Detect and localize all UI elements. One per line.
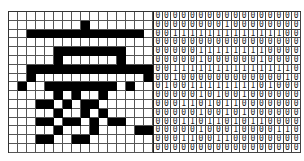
matrix-cell: 0 bbox=[258, 82, 267, 91]
pixel-off bbox=[99, 144, 108, 153]
pixel-off bbox=[45, 21, 54, 30]
pixel-off bbox=[144, 91, 153, 100]
pixel-off bbox=[135, 82, 144, 91]
matrix-cell: 1 bbox=[258, 30, 267, 39]
pixel-on bbox=[27, 30, 36, 39]
matrix-cell: 0 bbox=[249, 74, 258, 83]
pixel-on bbox=[126, 30, 135, 39]
pixel-on bbox=[72, 91, 81, 100]
pixel-off bbox=[135, 100, 144, 109]
pixel-off bbox=[72, 109, 81, 118]
matrix-cell: 1 bbox=[206, 82, 215, 91]
pixel-off bbox=[45, 109, 54, 118]
matrix-cell: 0 bbox=[214, 126, 223, 135]
pixel-off bbox=[99, 38, 108, 47]
pixel-off bbox=[36, 126, 45, 135]
pixel-off bbox=[36, 74, 45, 83]
pixel-off bbox=[99, 74, 108, 83]
pixel-off bbox=[117, 82, 126, 91]
matrix-cell: 0 bbox=[284, 144, 293, 153]
matrix-cell: 0 bbox=[240, 118, 249, 127]
pixel-off bbox=[36, 38, 45, 47]
matrix-cell: 0 bbox=[292, 118, 301, 127]
matrix-cell: 0 bbox=[180, 38, 189, 47]
pixel-off bbox=[90, 74, 99, 83]
matrix-cell: 1 bbox=[275, 126, 284, 135]
matrix-cell: 0 bbox=[163, 74, 172, 83]
matrix-cell: 1 bbox=[284, 65, 293, 74]
matrix-cell: 1 bbox=[197, 82, 206, 91]
pixel-off bbox=[135, 56, 144, 65]
matrix-cell: 1 bbox=[258, 118, 267, 127]
matrix-cell: 1 bbox=[214, 30, 223, 39]
pixel-off bbox=[108, 144, 117, 153]
pixel-off bbox=[90, 21, 99, 30]
pixel-off bbox=[81, 38, 90, 47]
pixel-on bbox=[90, 82, 99, 91]
matrix-cell: 0 bbox=[189, 91, 198, 100]
pixel-off bbox=[9, 47, 18, 56]
matrix-cell: 0 bbox=[284, 91, 293, 100]
pixel-off bbox=[18, 65, 27, 74]
pixel-off bbox=[54, 118, 63, 127]
pixel-on bbox=[99, 65, 108, 74]
pixel-off bbox=[126, 118, 135, 127]
matrix-cell: 0 bbox=[163, 135, 172, 144]
pixel-off bbox=[81, 74, 90, 83]
matrix-cell: 0 bbox=[223, 12, 232, 21]
matrix-cell: 0 bbox=[292, 82, 301, 91]
pixel-off bbox=[144, 38, 153, 47]
pixel-off bbox=[27, 21, 36, 30]
pixel-off bbox=[18, 21, 27, 30]
matrix-cell: 0 bbox=[249, 126, 258, 135]
matrix-cell: 1 bbox=[206, 65, 215, 74]
pixel-off bbox=[144, 109, 153, 118]
matrix-cell: 1 bbox=[197, 126, 206, 135]
pixel-on bbox=[81, 100, 90, 109]
pixel-on bbox=[18, 82, 27, 91]
matrix-cell: 0 bbox=[292, 135, 301, 144]
matrix-cell: 0 bbox=[197, 135, 206, 144]
pixel-off bbox=[117, 100, 126, 109]
matrix-cell: 1 bbox=[180, 135, 189, 144]
pixel-on bbox=[99, 82, 108, 91]
pixel-off bbox=[54, 38, 63, 47]
matrix-cell: 0 bbox=[180, 126, 189, 135]
matrix-cell: 0 bbox=[275, 38, 284, 47]
matrix-cell: 0 bbox=[258, 91, 267, 100]
pixel-on bbox=[45, 135, 54, 144]
pixel-off bbox=[117, 91, 126, 100]
matrix-cell: 0 bbox=[197, 12, 206, 21]
matrix-cell: 1 bbox=[189, 82, 198, 91]
matrix-cell: 0 bbox=[189, 12, 198, 21]
matrix-cell: 0 bbox=[284, 135, 293, 144]
pixel-on bbox=[81, 65, 90, 74]
matrix-cell: 0 bbox=[180, 82, 189, 91]
matrix-cell: 1 bbox=[206, 118, 215, 127]
matrix-cell: 0 bbox=[180, 91, 189, 100]
pixel-off bbox=[135, 91, 144, 100]
pixel-on bbox=[117, 30, 126, 39]
pixel-off bbox=[108, 74, 117, 83]
matrix-cell: 0 bbox=[292, 47, 301, 56]
pixel-off bbox=[108, 91, 117, 100]
matrix-cell: 0 bbox=[249, 109, 258, 118]
pixel-off bbox=[90, 38, 99, 47]
matrix-cell: 1 bbox=[197, 47, 206, 56]
matrix-cell: 0 bbox=[232, 56, 241, 65]
matrix-cell: 0 bbox=[249, 12, 258, 21]
matrix-cell: 0 bbox=[240, 74, 249, 83]
pixel-on bbox=[90, 118, 99, 127]
pixel-off bbox=[72, 144, 81, 153]
matrix-cell: 1 bbox=[223, 21, 232, 30]
matrix-cell: 0 bbox=[206, 21, 215, 30]
pixel-off bbox=[135, 21, 144, 30]
matrix-cell: 0 bbox=[266, 144, 275, 153]
pixel-on bbox=[72, 118, 81, 127]
pixel-on bbox=[144, 74, 153, 83]
matrix-cell: 0 bbox=[197, 144, 206, 153]
pixel-on bbox=[54, 47, 63, 56]
matrix-cell: 0 bbox=[249, 21, 258, 30]
pixel-off bbox=[45, 56, 54, 65]
pixel-off bbox=[9, 12, 18, 21]
